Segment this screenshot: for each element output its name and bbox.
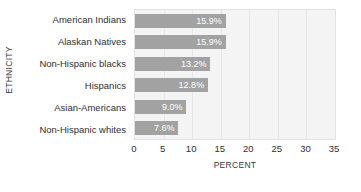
x-axis-tick-label: 10 [186, 143, 197, 154]
category-label: Non-Hispanic whites [16, 118, 130, 140]
category-label: American Indians [16, 9, 130, 31]
bar-row: 15.9% [135, 32, 335, 54]
bar: 12.8% [135, 78, 208, 92]
bar: 7.6% [135, 121, 178, 135]
bar-row: 12.8% [135, 75, 335, 97]
bar-value-label: 7.6% [154, 123, 175, 133]
x-axis-tick-label: 15 [214, 143, 225, 154]
x-axis-tick-label: 0 [131, 143, 136, 154]
bar-value-label: 9.0% [162, 102, 183, 112]
x-axis-tick-list: 05101520253035 [134, 143, 336, 157]
category-label: Hispanics [16, 74, 130, 96]
x-axis-tick-label: 30 [300, 143, 311, 154]
bar-value-label: 15.9% [196, 16, 222, 26]
bar: 13.2% [135, 57, 210, 71]
bar: 15.9% [135, 14, 226, 28]
category-label: Asian-Americans [16, 96, 130, 118]
category-label: Non-Hispanic blacks [16, 53, 130, 75]
category-label: Alaskan Natives [16, 31, 130, 53]
y-axis-title-text: ETHNICITY [4, 46, 14, 94]
x-axis-title: PERCENT [134, 160, 336, 170]
bar-row: 7.6% [135, 118, 335, 140]
x-axis-tick-label: 25 [272, 143, 283, 154]
plot-area: 15.9% 15.9% 13.2% 12.8% 9.0% [134, 9, 336, 140]
bar-value-label: 13.2% [181, 59, 207, 69]
y-axis-title: ETHNICITY [2, 0, 16, 140]
category-label-list: American Indians Alaskan Natives Non-His… [16, 9, 130, 140]
bar: 9.0% [135, 100, 186, 114]
bar-value-label: 12.8% [179, 80, 205, 90]
bar-row: 9.0% [135, 96, 335, 118]
x-axis-tick-label: 5 [160, 143, 165, 154]
bar-chart: ETHNICITY American Indians Alaskan Nativ… [0, 0, 361, 192]
x-axis-tick-label: 35 [329, 143, 340, 154]
bars-layer: 15.9% 15.9% 13.2% 12.8% 9.0% [135, 10, 335, 139]
bar-row: 15.9% [135, 10, 335, 32]
x-axis-tick-label: 20 [243, 143, 254, 154]
bar-value-label: 15.9% [196, 37, 222, 47]
bar-row: 13.2% [135, 53, 335, 75]
bar: 15.9% [135, 35, 226, 49]
